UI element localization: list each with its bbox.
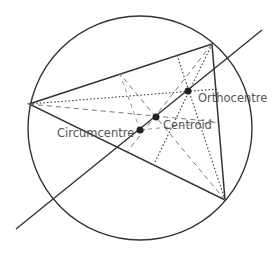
centroid-label: Centroid (163, 118, 212, 132)
circumcentre-label: Circumcentre (57, 126, 134, 140)
circumcentre-point (137, 127, 144, 134)
centroid-point (153, 114, 160, 121)
orthocentre-label: Orthocentre (198, 91, 267, 105)
euler-line-diagram: Orthocentre Centroid Circumcentre (0, 0, 277, 253)
orthocentre-point (185, 88, 192, 95)
